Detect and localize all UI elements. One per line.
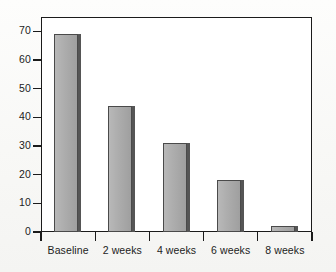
bar-shading (109, 107, 131, 231)
bar-series (0, 0, 336, 272)
bar-shading (272, 227, 294, 231)
bar-chart-figure: 010203040506070Baseline2 weeks4 weeks6 w… (0, 0, 336, 272)
bar-shading (218, 181, 240, 231)
bar-shading (164, 144, 186, 231)
bar-shading (55, 35, 77, 231)
bar (163, 143, 187, 232)
bar (54, 34, 78, 232)
bar (217, 180, 241, 232)
bar (108, 106, 132, 232)
bar (271, 226, 295, 232)
